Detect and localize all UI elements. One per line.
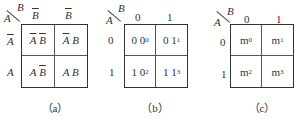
- kmap-grid: 0 00 0 11 1 02 1 13: [124, 24, 188, 88]
- col-header-0: 0: [135, 11, 141, 23]
- kmap-cell-01: A B: [55, 25, 88, 56]
- kmap-grid: A B A B A B A B: [21, 24, 88, 88]
- col-header-0: B: [32, 9, 39, 21]
- kmap-cell-00: m0: [231, 25, 262, 56]
- row-variable-label: A: [214, 16, 221, 28]
- col-variable-label: B: [227, 5, 234, 17]
- karnaugh-map-c: B A 0 1 0 1 m0 m1 m2 m3 （c）: [196, 0, 294, 119]
- kmap-cell-10: 1 02: [125, 56, 156, 87]
- caption: （a）: [25, 99, 85, 115]
- row-header-0: 0: [108, 34, 114, 46]
- row-header-0: A: [7, 35, 14, 47]
- kmap-cell-00: A B: [22, 25, 55, 56]
- row-variable-label: A: [4, 12, 11, 24]
- col-header-1: 1: [167, 11, 173, 23]
- col-variable-label: B: [17, 1, 24, 13]
- karnaugh-map-a: B A B B A A A B A B A B A B （a）: [0, 0, 98, 119]
- row-header-1: 1: [109, 66, 115, 78]
- kmap-cell-10: m2: [231, 56, 262, 87]
- kmap-cell-11: A B: [55, 56, 88, 87]
- kmap-cell-11: 1 13: [156, 56, 187, 87]
- caption: （b）: [125, 99, 185, 115]
- kmap-grid: m0 m1 m2 m3: [230, 24, 294, 88]
- row-header-0: 0: [220, 36, 226, 48]
- karnaugh-map-b: B A 0 1 0 1 0 00 0 11 1 02 1 13 （b）: [98, 0, 196, 119]
- row-header-1: A: [7, 66, 14, 78]
- caption: （c）: [232, 99, 292, 115]
- kmap-cell-01: 0 11: [156, 25, 187, 56]
- kmap-cell-10: A B: [22, 56, 55, 87]
- col-variable-label: B: [118, 2, 125, 14]
- row-variable-label: A: [106, 14, 113, 26]
- col-header-1: B: [65, 9, 72, 21]
- kmap-cell-11: m3: [262, 56, 293, 87]
- row-header-1: 1: [221, 68, 227, 80]
- kmap-cell-00: 0 00: [125, 25, 156, 56]
- kmap-cell-01: m1: [262, 25, 293, 56]
